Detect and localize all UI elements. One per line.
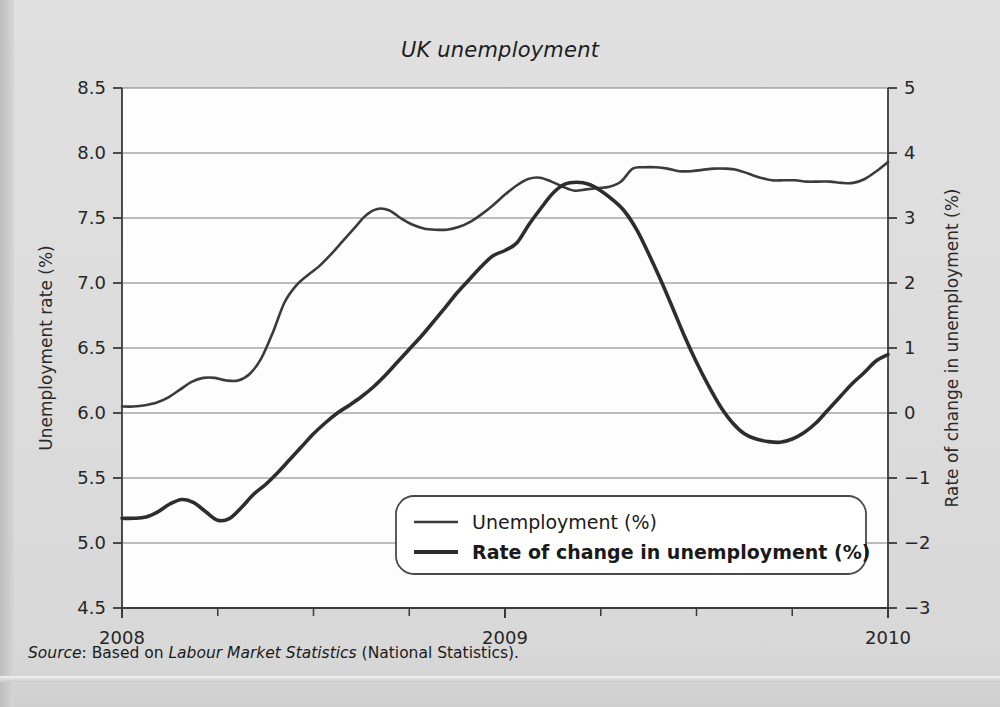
right-axis-tick-label: 4 xyxy=(904,142,915,163)
uk-unemployment-line-chart: 4.55.05.56.06.57.07.58.08.5−3−2−10123452… xyxy=(0,0,1000,707)
x-axis-tick-label: 2010 xyxy=(865,627,911,648)
left-axis-tick-label: 7.0 xyxy=(77,272,106,293)
left-axis-tick-label: 8.0 xyxy=(77,142,106,163)
right-axis-tick-label: −2 xyxy=(904,532,931,553)
right-axis-tick-label: −3 xyxy=(904,597,931,618)
left-axis-tick-label: 5.5 xyxy=(77,467,106,488)
figure-page: UK unemployment 4.55.05.56.06.57.07.58.0… xyxy=(0,0,1000,707)
right-axis-title: Rate of change in unemployment (%) xyxy=(942,189,962,508)
source-attribution: (National Statistics). xyxy=(357,644,519,662)
source-connector: : Based on xyxy=(82,644,169,662)
right-axis-tick-label: −1 xyxy=(904,467,931,488)
source-label: Source xyxy=(28,644,82,662)
legend-label-2: Rate of change in unemployment (%) xyxy=(472,541,870,563)
legend-label-1: Unemployment (%) xyxy=(472,511,657,533)
right-axis-tick-label: 2 xyxy=(904,272,915,293)
left-axis-tick-label: 6.5 xyxy=(77,337,106,358)
left-axis-tick-label: 5.0 xyxy=(77,532,106,553)
left-axis-tick-label: 4.5 xyxy=(77,597,106,618)
right-axis-tick-label: 5 xyxy=(904,77,915,98)
source-publication: Labour Market Statistics xyxy=(168,644,356,662)
right-axis-tick-label: 0 xyxy=(904,402,915,423)
left-axis-tick-label: 8.5 xyxy=(77,77,106,98)
left-axis-title: Unemployment rate (%) xyxy=(36,245,56,450)
chart-container: 4.55.05.56.06.57.07.58.08.5−3−2−10123452… xyxy=(0,0,1000,707)
source-caption: Source: Based on Labour Market Statistic… xyxy=(28,644,519,662)
right-axis-tick-label: 3 xyxy=(904,207,915,228)
right-axis-tick-label: 1 xyxy=(904,337,915,358)
left-axis-tick-label: 7.5 xyxy=(77,207,106,228)
left-axis-tick-label: 6.0 xyxy=(77,402,106,423)
